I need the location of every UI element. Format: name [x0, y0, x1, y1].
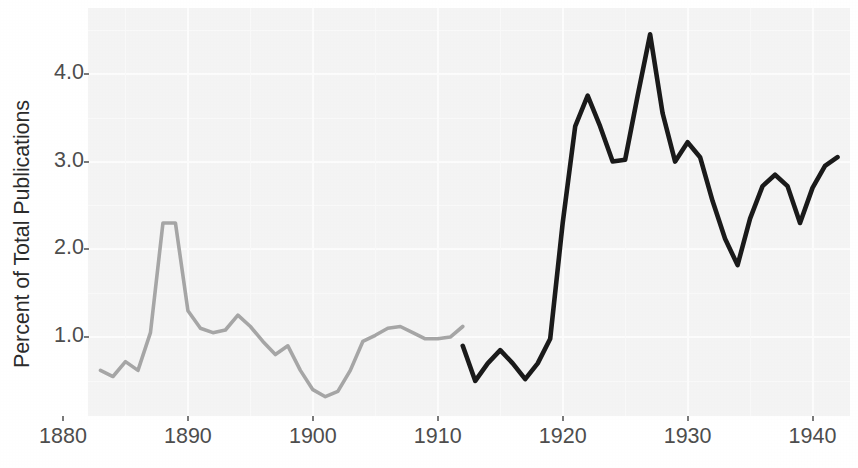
y-tick-label: 2.0	[54, 235, 84, 260]
y-tick-mark	[84, 161, 89, 163]
x-axis-tick-labels: 1880189019001910192019301940	[0, 424, 858, 460]
y-tick-mark	[84, 73, 89, 75]
x-tick-label: 1890	[164, 424, 212, 449]
y-axis-title: Percent of Total Publications	[0, 0, 44, 468]
x-tick-label: 1900	[289, 424, 337, 449]
x-tick-label: 1880	[39, 424, 87, 449]
y-axis-tick-labels: 1.02.03.04.0	[40, 8, 84, 416]
x-tick-mark	[812, 416, 814, 421]
series-line-later-period	[463, 34, 838, 381]
y-tick-mark	[84, 248, 89, 250]
y-tick-label: 3.0	[54, 148, 84, 173]
y-tick-label: 1.0	[54, 323, 84, 348]
x-tick-label: 1920	[539, 424, 587, 449]
y-tick-label: 4.0	[54, 60, 84, 85]
x-tick-mark	[437, 416, 439, 421]
x-tick-mark	[187, 416, 189, 421]
x-tick-label: 1940	[789, 424, 837, 449]
x-tick-mark	[62, 416, 64, 421]
plot-panel	[88, 8, 850, 416]
series-line-early-period	[100, 223, 462, 397]
x-tick-mark	[687, 416, 689, 421]
x-tick-mark	[312, 416, 314, 421]
publications-line-chart: Percent of Total Publications 1.02.03.04…	[0, 0, 858, 468]
series-layer	[88, 8, 850, 416]
x-tick-label: 1910	[414, 424, 462, 449]
x-tick-label: 1930	[664, 424, 712, 449]
y-tick-mark	[84, 336, 89, 338]
x-tick-mark	[562, 416, 564, 421]
